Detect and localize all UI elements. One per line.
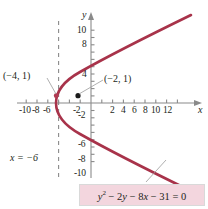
directrix-label: x = −6 [10,153,38,163]
y-tick-label-neg6: -6 [78,140,85,150]
x-tick-label-neg6: -6 [43,106,50,116]
y-tick-label-neg8: -8 [78,155,85,165]
y-tick-label-10: 10 [77,26,86,36]
vertex-marker [54,93,59,98]
y-axis-label: y [82,10,86,20]
x-tick-label-4: 4 [121,106,125,116]
y-tick-label-neg2: -2 [78,111,85,121]
x-tick-label-10: 10 [151,106,160,116]
vertex-label: (−4, 1) [3,71,30,81]
equation-text: y2 − 2y − 8x − 31 = 0 [98,189,186,202]
x-tick-label-neg10: -10 [19,106,31,116]
x-tick-label-8: 8 [143,106,147,116]
x-tick-label-12: 12 [163,106,172,116]
parabola-figure: -10 -8 -6 -2 2 4 6 8 10 12 10 8 4 -2 -6 … [0,0,208,209]
x-tick-label-neg8: -8 [32,106,39,116]
y-tick-label-4: 4 [82,70,86,80]
x-tick-label-2: 2 [110,106,114,116]
focus-label: (−2, 1) [104,74,131,84]
x-tick-label-6: 6 [132,106,136,116]
x-axis-label: x [198,105,202,115]
vertex-leader-line [47,78,56,94]
y-tick-label-8: 8 [82,40,86,50]
y-axis [88,12,95,178]
y-tick-label-neg10: -10 [74,169,86,179]
equation-remainder: − 2y − 8x − 31 = 0 [106,190,186,201]
equation-callout-box: y2 − 2y − 8x − 31 = 0 [79,184,205,206]
